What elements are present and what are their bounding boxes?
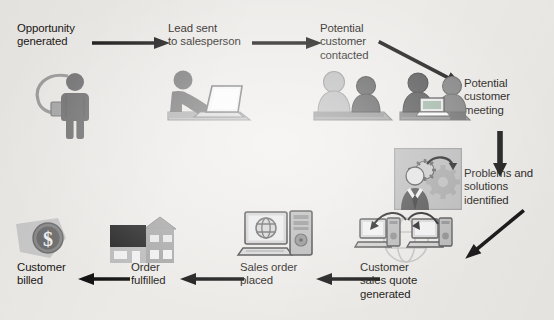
meeting-with-laptop-icon [398,68,476,128]
person-thinking-gears-icon [394,148,462,210]
step-label-sales-order-placed: Sales order placed [240,261,316,288]
svg-text:$: $ [43,228,53,250]
step-label-order-fulfilled: Order fulfilled [131,261,193,288]
dollar-coin-tag-icon: $ [14,216,76,262]
desktop-computer-globe-icon [243,210,319,260]
person-at-laptop-icon [156,66,256,128]
person-with-lightbulb-icon [28,62,110,140]
two-people-talking-icon [310,68,396,128]
arrow-opportunity-to-lead [92,36,170,50]
networked-computers-icon [354,212,458,262]
sales-process-flow-diagram: Opportunity generated Lead sent to sales… [0,0,554,320]
step-label-opportunity-generated: Opportunity generated [17,22,103,49]
step-label-customer-billed: Customer billed [17,261,87,288]
step-label-lead-sent-to-salesperson: Lead sent to salesperson [168,22,268,49]
step-label-potential-customer-contacted: Potential customer contacted [320,22,400,62]
warehouse-building-icon [108,215,176,263]
step-label-problems-and-solutions-identified: Problems and solutions identified [464,167,550,207]
step-label-customer-sales-quote-generated: Customer sales quote generated [360,261,446,301]
